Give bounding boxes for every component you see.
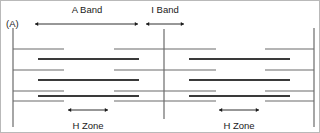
a-band-arrow: [35, 22, 138, 26]
z-line-group: [13, 28, 314, 127]
h-zone-left-arrow-head-left: [68, 108, 71, 112]
sarcomere-figure: A BandI BandH ZoneH Zone (A): [0, 0, 320, 133]
h-zone-left-arrow-label: H Zone: [72, 120, 103, 131]
h-zone-right-arrow-head-left: [219, 108, 222, 112]
h-zone-right-arrow-label: H Zone: [223, 120, 254, 131]
i-band-arrow-head-left: [146, 22, 149, 26]
panel-label: (A): [6, 18, 19, 29]
measure-arrow-group: [35, 22, 259, 112]
measure-label-group: A BandI BandH ZoneH Zone: [72, 4, 255, 131]
i-band-arrow-label: I Band: [151, 4, 178, 15]
i-band-arrow: [146, 22, 184, 26]
h-zone-right-arrow: [219, 108, 259, 112]
h-zone-left-arrow-head-right: [105, 108, 108, 112]
h-zone-left-arrow: [68, 108, 108, 112]
a-band-arrow-head-left: [35, 22, 38, 26]
sarcomere-svg: A BandI BandH ZoneH Zone (A): [1, 1, 320, 133]
h-zone-right-arrow-head-right: [256, 108, 259, 112]
i-band-arrow-head-right: [181, 22, 184, 26]
a-band-arrow-label: A Band: [72, 4, 103, 15]
a-band-arrow-head-right: [135, 22, 138, 26]
